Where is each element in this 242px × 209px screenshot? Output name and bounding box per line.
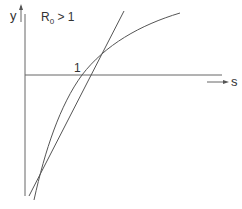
diagram-canvas (0, 0, 242, 209)
straight-line (29, 11, 124, 196)
intersection-label: 1 (74, 62, 81, 74)
x-axis-label: s (231, 76, 238, 88)
condition-label: R0 > 1 (41, 11, 74, 28)
concave-curve (34, 13, 180, 200)
x-arrow-head-icon (223, 80, 229, 84)
y-axis-label: y (10, 10, 17, 22)
r-label: R (41, 10, 50, 24)
y-arrow-head-icon (19, 4, 23, 10)
condition-rest: > 1 (54, 10, 74, 24)
